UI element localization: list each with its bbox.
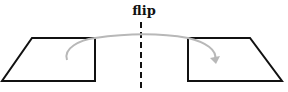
original-shape	[2, 38, 95, 81]
flipped-shape	[188, 38, 282, 81]
flip-diagram: flip	[0, 0, 288, 92]
arrowhead-icon	[210, 56, 220, 64]
flip-label: flip	[132, 3, 155, 18]
